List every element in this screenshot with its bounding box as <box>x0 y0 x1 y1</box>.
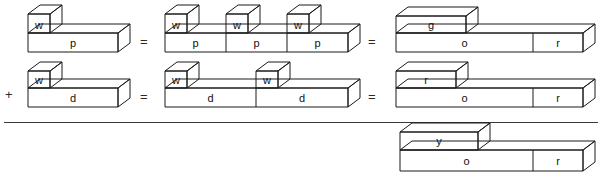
row3-o-label: o <box>400 156 533 167</box>
row3-result-group <box>0 0 604 179</box>
row3-r-label: r <box>533 156 583 167</box>
diagram-canvas: w p = w w w p p p = <box>0 0 604 179</box>
row3-y-label: y <box>400 136 478 147</box>
